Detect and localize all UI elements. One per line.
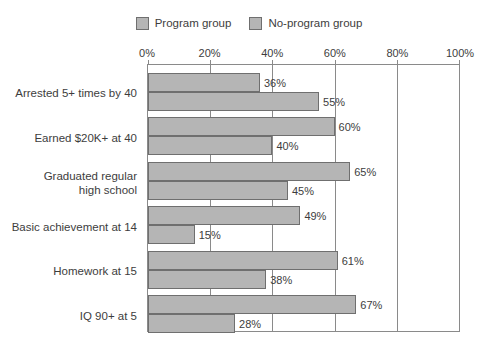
category-label-earned: Earned $20K+ at 40 [34,132,137,146]
value-label-graduated-no-program: 45% [292,185,314,198]
value-label-arrested-program: 36% [264,77,286,90]
x-tick-label-20: 20% [199,47,221,60]
bar-iq-no-program [148,314,235,333]
value-label-earned-program: 60% [339,121,361,134]
x-tick-label-60: 60% [324,47,346,60]
bar-graduated-program [148,162,350,181]
x-tick-label-40: 40% [261,47,283,60]
bar-basic-no-program [148,225,195,244]
category-label-basic: Basic achievement at 14 [12,221,137,235]
category-label-homework: Homework at 15 [53,265,137,279]
legend-label: No-program group [268,17,362,30]
x-axis-tick-labels: 0% 20% 40% 60% 80% 100% [147,47,460,60]
category-label-arrested: Arrested 5+ times by 40 [15,87,137,101]
bar-homework-program [148,251,338,270]
value-label-iq-no-program: 28% [239,318,261,331]
value-label-graduated-program: 65% [354,166,376,179]
bar-basic-program [148,206,300,225]
category-label-iq: IQ 90+ at 5 [80,310,137,324]
grouped-bar-chart: Program group No-program group 0% 20% 40… [0,0,498,354]
bar-iq-program [148,295,356,314]
chart-legend: Program group No-program group [0,17,498,30]
value-label-earned-no-program: 40% [276,140,298,153]
category-label-graduated: Graduated regular high school [44,170,137,197]
y-axis-category-labels: Arrested 5+ times by 40 Earned $20K+ at … [0,64,142,332]
bars-layer: 36% 55% 60% 40% 65% 45% 49% 15% 61% 38% … [148,65,459,331]
legend-swatch-icon [249,17,262,30]
x-tick-label-80: 80% [386,47,408,60]
legend-swatch-icon [136,17,149,30]
legend-entry-program-group: Program group [136,17,232,30]
bar-arrested-no-program [148,92,319,111]
value-label-homework-program: 61% [342,255,364,268]
value-label-iq-program: 67% [360,299,382,312]
x-tick-label-0: 0% [139,47,155,60]
value-label-arrested-no-program: 55% [323,96,345,109]
legend-label: Program group [155,17,232,30]
bar-arrested-program [148,73,260,92]
plot-area: 36% 55% 60% 40% 65% 45% 49% 15% 61% 38% … [147,64,460,332]
x-tick-mark-100 [459,60,460,65]
value-label-homework-no-program: 38% [270,274,292,287]
legend-entry-no-program-group: No-program group [249,17,362,30]
x-tick-label-100: 100% [446,47,474,60]
value-label-basic-program: 49% [304,210,326,223]
bar-earned-no-program [148,136,272,155]
value-label-basic-no-program: 15% [199,229,221,242]
bar-homework-no-program [148,270,266,289]
bar-graduated-no-program [148,181,288,200]
bar-earned-program [148,117,335,136]
